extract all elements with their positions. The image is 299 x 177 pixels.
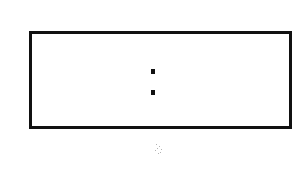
colon-dot-top <box>151 69 155 74</box>
noise-speck <box>152 142 166 156</box>
bordered-box <box>29 31 292 129</box>
canvas <box>0 0 299 177</box>
colon-dot-bottom <box>151 90 155 95</box>
